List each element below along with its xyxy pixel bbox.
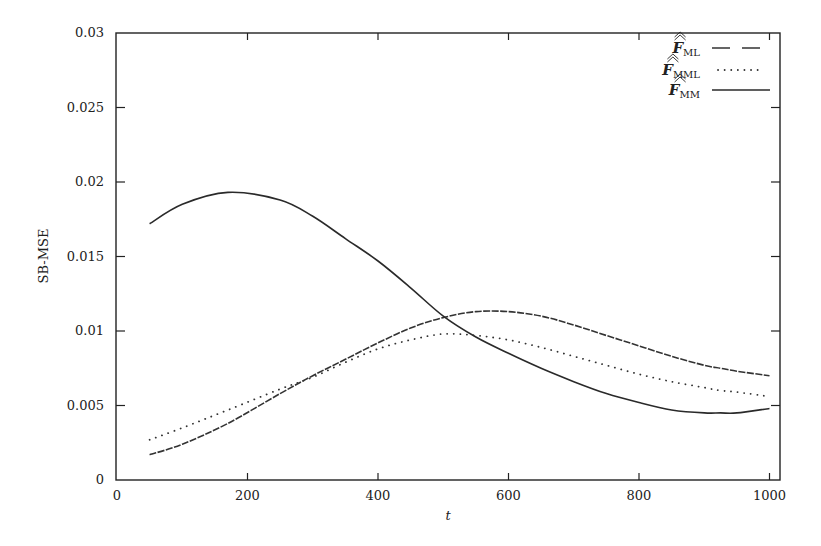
plot-frame: [116, 33, 780, 480]
y-tick-label: 0.03: [75, 25, 104, 40]
y-tick-label: 0.015: [67, 249, 104, 264]
y-axis-label: SB-MSE: [36, 229, 51, 284]
series-line-mm: [150, 192, 770, 413]
series-layer: [150, 192, 770, 454]
x-tick-label: 1000: [753, 488, 786, 503]
legend-item-mml: FMML: [661, 54, 760, 80]
x-tick-label: 400: [366, 488, 391, 503]
legend: FMLFMMLFMM: [661, 32, 770, 100]
y-tick-label: 0.02: [75, 174, 104, 189]
x-tick-label: 0: [113, 488, 121, 503]
x-axis-label: t: [445, 508, 451, 523]
x-tick-label: 800: [627, 488, 652, 503]
line-chart: 02004006008001000 00.0050.010.0150.020.0…: [0, 0, 821, 546]
legend-label: FMM: [668, 81, 700, 100]
y-tick-label: 0.005: [67, 398, 104, 413]
plot-area: [116, 33, 780, 480]
legend-label: FML: [671, 39, 700, 58]
y-tick-label: 0: [96, 472, 104, 487]
legend-item-ml: FML: [671, 32, 770, 58]
x-axis: 02004006008001000: [113, 33, 786, 503]
y-tick-label: 0.01: [75, 323, 104, 338]
series-line-ml: [150, 311, 770, 455]
series-line-mml: [150, 334, 770, 440]
x-tick-label: 600: [496, 488, 521, 503]
x-tick-label: 200: [235, 488, 260, 503]
y-tick-label: 0.025: [67, 100, 104, 115]
